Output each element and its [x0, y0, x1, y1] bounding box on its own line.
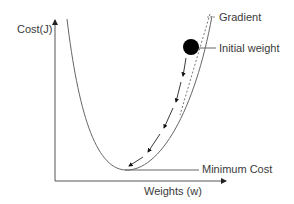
y-axis-label: Cost(J): [17, 24, 52, 35]
x-axis-label: Weights (w): [144, 186, 202, 197]
initial-weight-ball: [183, 39, 199, 55]
minimum-cost-label: Minimum Cost: [202, 164, 272, 175]
initial-weight-label: Initial weight: [219, 43, 280, 54]
descent-arrows: [129, 58, 186, 166]
gradient-label: Gradient: [219, 12, 261, 23]
